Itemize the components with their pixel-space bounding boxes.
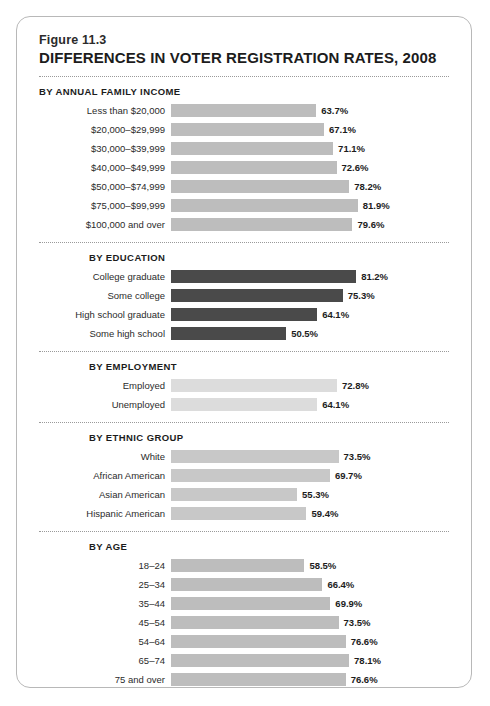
bar-row: Employed72.8% bbox=[39, 378, 449, 394]
bar bbox=[171, 161, 337, 174]
chart-sections: BY ANNUAL FAMILY INCOMELess than $20,000… bbox=[39, 76, 449, 688]
bar-area: 76.6% bbox=[171, 672, 449, 688]
bar-area: 81.2% bbox=[171, 269, 449, 285]
bar-row-label: College graduate bbox=[39, 271, 171, 282]
bar-value-label: 69.9% bbox=[335, 598, 362, 609]
bar-row: Unemployed64.1% bbox=[39, 397, 449, 413]
bar-area: 78.1% bbox=[171, 653, 449, 669]
bar bbox=[171, 379, 337, 392]
chart-section-3: BY ETHNIC GROUPWhite73.5%African America… bbox=[39, 432, 449, 522]
chart-section-0: BY ANNUAL FAMILY INCOMELess than $20,000… bbox=[39, 86, 449, 233]
bar bbox=[171, 199, 358, 212]
bar-value-label: 64.1% bbox=[322, 399, 349, 410]
bar-row: 54–6476.6% bbox=[39, 634, 449, 650]
bar-rows: Less than $20,00063.7%$20,000–$29,99967.… bbox=[39, 103, 449, 233]
chart-section-4: BY AGE18–2458.5%25–3466.4%35–4469.9%45–5… bbox=[39, 541, 449, 688]
bar-row-label: $30,000–$39,999 bbox=[39, 143, 171, 154]
bar-value-label: 78.2% bbox=[354, 181, 381, 192]
bar-row: $75,000–$99,99981.9% bbox=[39, 198, 449, 214]
bar-area: 79.6% bbox=[171, 217, 449, 233]
section-header: BY EDUCATION bbox=[39, 252, 449, 263]
bar-row-label: Some high school bbox=[39, 328, 171, 339]
bar bbox=[171, 123, 324, 136]
bar-area: 69.9% bbox=[171, 596, 449, 612]
bar-row: 18–2458.5% bbox=[39, 558, 449, 574]
figure-title: DIFFERENCES IN VOTER REGISTRATION RATES,… bbox=[39, 50, 449, 67]
bar-value-label: 72.8% bbox=[342, 380, 369, 391]
bar bbox=[171, 488, 297, 501]
bar-row-label: 45–54 bbox=[39, 617, 171, 628]
bar-area: 76.6% bbox=[171, 634, 449, 650]
bar-row-label: $100,000 and over bbox=[39, 219, 171, 230]
section-header: BY ETHNIC GROUP bbox=[39, 432, 449, 443]
bar-row-label: $20,000–$29,999 bbox=[39, 124, 171, 135]
section-divider bbox=[39, 422, 449, 423]
bar-area: 73.5% bbox=[171, 615, 449, 631]
bar-row: $30,000–$39,99971.1% bbox=[39, 141, 449, 157]
bar-row: $20,000–$29,99967.1% bbox=[39, 122, 449, 138]
bar bbox=[171, 507, 306, 520]
bar bbox=[171, 308, 317, 321]
bar-row: $50,000–$74,99978.2% bbox=[39, 179, 449, 195]
bar-row-label: White bbox=[39, 451, 171, 462]
bar bbox=[171, 635, 346, 648]
bar-value-label: 75.3% bbox=[348, 290, 375, 301]
bar-row-label: Less than $20,000 bbox=[39, 105, 171, 116]
bar-row-label: Employed bbox=[39, 380, 171, 391]
bar-area: 72.6% bbox=[171, 160, 449, 176]
bar bbox=[171, 327, 286, 340]
bar bbox=[171, 450, 339, 463]
bar bbox=[171, 578, 322, 591]
bar-value-label: 58.5% bbox=[309, 560, 336, 571]
bar-area: 59.4% bbox=[171, 506, 449, 522]
bar-row: High school graduate64.1% bbox=[39, 307, 449, 323]
bar-area: 72.8% bbox=[171, 378, 449, 394]
section-header: BY AGE bbox=[39, 541, 449, 552]
bar-row-label: 65–74 bbox=[39, 655, 171, 666]
figure-content: Figure 11.3 DIFFERENCES IN VOTER REGISTR… bbox=[17, 17, 471, 688]
bar-area: 67.1% bbox=[171, 122, 449, 138]
chart-section-1: BY EDUCATIONCollege graduate81.2%Some co… bbox=[39, 252, 449, 342]
bar-row-label: 54–64 bbox=[39, 636, 171, 647]
bar-value-label: 76.6% bbox=[351, 636, 378, 647]
bar bbox=[171, 673, 346, 686]
bar-row: African American69.7% bbox=[39, 468, 449, 484]
bar bbox=[171, 616, 339, 629]
bar-row: 35–4469.9% bbox=[39, 596, 449, 612]
bar-row-label: 25–34 bbox=[39, 579, 171, 590]
bar-value-label: 59.4% bbox=[311, 508, 338, 519]
bar-area: 71.1% bbox=[171, 141, 449, 157]
bar-area: 75.3% bbox=[171, 288, 449, 304]
bar-area: 50.5% bbox=[171, 326, 449, 342]
bar-area: 64.1% bbox=[171, 307, 449, 323]
figure-card: Figure 11.3 DIFFERENCES IN VOTER REGISTR… bbox=[16, 16, 472, 688]
bar-value-label: 81.2% bbox=[361, 271, 388, 282]
bar bbox=[171, 559, 304, 572]
bar-row-label: $40,000–$49,999 bbox=[39, 162, 171, 173]
bar-value-label: 63.7% bbox=[321, 105, 348, 116]
bar-area: 58.5% bbox=[171, 558, 449, 574]
bar-area: 73.5% bbox=[171, 449, 449, 465]
bar-value-label: 50.5% bbox=[291, 328, 318, 339]
bar-area: 64.1% bbox=[171, 397, 449, 413]
bar-row: Some college75.3% bbox=[39, 288, 449, 304]
bar-row: $40,000–$49,99972.6% bbox=[39, 160, 449, 176]
bar-row-label: $50,000–$74,999 bbox=[39, 181, 171, 192]
bar bbox=[171, 104, 316, 117]
bar bbox=[171, 180, 349, 193]
bar-row-label: $75,000–$99,999 bbox=[39, 200, 171, 211]
section-divider bbox=[39, 76, 449, 77]
bar-value-label: 64.1% bbox=[322, 309, 349, 320]
bar-value-label: 55.3% bbox=[302, 489, 329, 500]
bar-row: 45–5473.5% bbox=[39, 615, 449, 631]
bar-row: $100,000 and over79.6% bbox=[39, 217, 449, 233]
figure-number: Figure 11.3 bbox=[39, 33, 449, 47]
bar-row-label: High school graduate bbox=[39, 309, 171, 320]
bar-value-label: 76.6% bbox=[351, 674, 378, 685]
bar-row: Asian American55.3% bbox=[39, 487, 449, 503]
section-divider bbox=[39, 351, 449, 352]
bar-row-label: African American bbox=[39, 470, 171, 481]
bar-row: White73.5% bbox=[39, 449, 449, 465]
bar-rows: Employed72.8%Unemployed64.1% bbox=[39, 378, 449, 413]
bar-row: Less than $20,00063.7% bbox=[39, 103, 449, 119]
